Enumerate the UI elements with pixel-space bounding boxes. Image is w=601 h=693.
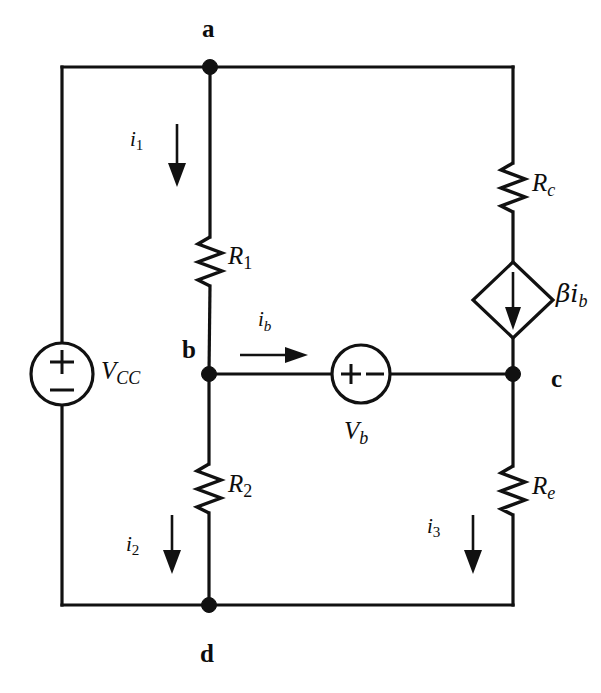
resistor-r1-label: R1 <box>228 243 252 272</box>
circuit-diagram-figure: a b c d VCC Vb βib R1 R2 Rc Re i1 ib i2 … <box>0 0 601 693</box>
current-label-i1: i1 <box>130 129 143 153</box>
node-label-d: d <box>200 641 214 666</box>
circuit-schematic-canvas <box>0 0 601 693</box>
re-label-main: R <box>532 472 547 499</box>
resistor-rc-label: Rc <box>532 170 555 199</box>
i2-label-subscript: 2 <box>132 542 140 558</box>
resistor-r2-label: R2 <box>228 471 252 500</box>
resistor-re-symbol <box>501 466 525 515</box>
node-label-c: c <box>551 366 562 391</box>
resistors-group <box>197 163 525 515</box>
vcc-label-subscript: CC <box>116 368 140 388</box>
ib-label-subscript: b <box>264 318 272 334</box>
r1-label-main: R <box>228 242 243 269</box>
current-arrow-i2-head <box>163 550 181 574</box>
node-dot-b <box>202 367 217 382</box>
re-label-subscript: e <box>547 483 555 503</box>
dependent-source-label-main: βi <box>556 279 578 308</box>
node-label-b: b <box>182 337 196 362</box>
wire-r1-to-b <box>209 286 210 374</box>
current-label-i2: i2 <box>126 534 139 558</box>
i3-label-subscript: 3 <box>433 524 441 540</box>
vcc-label-main: V <box>101 357 116 384</box>
dependent-source-label-subscript: b <box>578 291 587 311</box>
dependent-current-source <box>473 262 553 338</box>
resistor-r1-symbol <box>198 237 222 286</box>
node-label-a: a <box>202 16 215 41</box>
rc-label-subscript: c <box>547 180 555 200</box>
dependent-source-label: βib <box>556 281 587 310</box>
rc-label-main: R <box>532 169 547 196</box>
resistor-rc-symbol <box>501 163 525 212</box>
r2-label-main: R <box>228 470 243 497</box>
r1-label-subscript: 1 <box>243 253 252 273</box>
resistor-r2-symbol <box>197 464 221 513</box>
voltage-source-vcc-label: VCC <box>101 358 140 387</box>
node-dot-c <box>506 367 521 382</box>
r2-label-subscript: 2 <box>243 481 252 501</box>
resistor-re-label: Re <box>532 473 555 502</box>
current-label-ib: ib <box>258 309 271 334</box>
voltage-source-vb-label: Vb <box>344 418 368 447</box>
node-dot-a <box>203 60 218 75</box>
vb-label-main: V <box>344 417 359 444</box>
current-label-i3: i3 <box>427 516 440 540</box>
current-arrow-i1-head <box>168 163 186 187</box>
voltage-source-vb <box>332 345 390 403</box>
current-arrow-i3-head <box>464 550 482 574</box>
vb-label-subscript: b <box>359 428 368 448</box>
i1-label-subscript: 1 <box>136 137 144 153</box>
current-arrow-ib-head <box>285 347 308 363</box>
node-dot-d <box>202 598 217 613</box>
voltage-source-vcc <box>31 343 93 405</box>
